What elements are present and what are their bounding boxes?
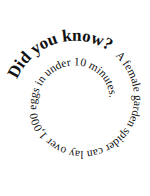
fact-heading: Did you know? bbox=[4, 26, 117, 82]
fact-body: A female garden spider can lay over 1,00… bbox=[26, 49, 144, 161]
spiral-fact-graphic: Did you know? A female garden spider can… bbox=[0, 0, 150, 196]
spiral-text: Did you know? A female garden spider can… bbox=[4, 26, 145, 161]
